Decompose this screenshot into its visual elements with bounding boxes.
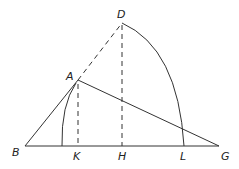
label-b: B (12, 146, 20, 159)
label-k: K (73, 150, 81, 163)
line-ag (78, 80, 219, 146)
arc-dl (122, 23, 184, 146)
arc-a (62, 83, 76, 146)
label-g: G (221, 150, 230, 163)
geometry-diagram: D A B K H L G (0, 0, 239, 169)
label-h: H (118, 150, 126, 163)
label-d: D (117, 8, 125, 21)
line-ad-dashed (78, 23, 122, 80)
line-ba (25, 80, 78, 146)
label-a: A (65, 70, 74, 83)
label-l: L (180, 150, 186, 163)
